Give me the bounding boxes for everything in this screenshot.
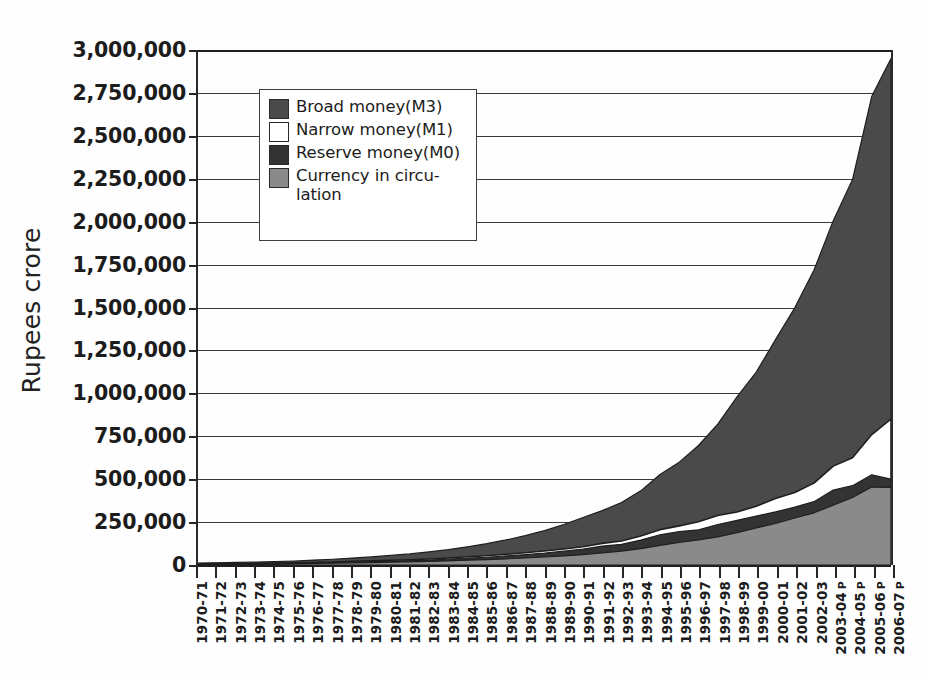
y-tick-label: 1,750,000 bbox=[72, 253, 186, 277]
x-tick-label-text: 1992-93 bbox=[620, 581, 636, 644]
x-tick-label-text: 2002-03 bbox=[814, 581, 830, 644]
chart-page: Rupees crore 3,000,0002,750,0002,500,000… bbox=[0, 0, 927, 683]
y-tick-label: 2,500,000 bbox=[72, 124, 186, 148]
y-tick-label: 1,500,000 bbox=[72, 296, 186, 320]
legend-item-label: Narrow money(M1) bbox=[296, 120, 453, 139]
legend-item-label: Currency in circu-lation bbox=[296, 166, 440, 204]
x-tick-label: 1974-75 bbox=[271, 581, 287, 644]
x-tick-label: 1984-85 bbox=[465, 581, 481, 644]
x-tick-label-text: 1975-76 bbox=[291, 581, 307, 644]
legend-swatch-icon bbox=[269, 99, 289, 119]
x-tick-mark bbox=[409, 565, 411, 578]
legend-swatch-icon bbox=[269, 122, 289, 142]
x-tick-label: 1971-72 bbox=[213, 581, 229, 644]
x-tick-label-text: 1974-75 bbox=[271, 581, 287, 644]
x-tick-label-text: 1983-84 bbox=[446, 581, 462, 644]
x-tick-mark bbox=[893, 565, 895, 578]
x-tick-mark bbox=[661, 565, 663, 578]
x-tick-label-text: 1996-97 bbox=[697, 581, 713, 644]
legend-item-label: Reserve money(M0) bbox=[296, 143, 460, 162]
x-tick-label: 1978-79 bbox=[349, 581, 365, 644]
y-tick-label: 2,000,000 bbox=[72, 210, 186, 234]
x-tick-mark bbox=[312, 565, 314, 578]
x-tick-mark bbox=[603, 565, 605, 578]
x-axis-tick-labels: 1970-711971-721972-731973-741974-751975-… bbox=[196, 565, 893, 683]
x-tick-label: 2004-05P bbox=[852, 581, 868, 655]
x-tick-mark bbox=[545, 565, 547, 578]
x-tick-label: 1999-00 bbox=[755, 581, 771, 644]
y-tick-label: 3,000,000 bbox=[72, 38, 186, 62]
y-axis-title-text: Rupees crore bbox=[18, 227, 47, 393]
x-tick-label-text: 1994-95 bbox=[659, 581, 675, 644]
x-tick-mark bbox=[525, 565, 527, 578]
x-tick-label-text: 2003-04 bbox=[833, 592, 849, 655]
x-tick-label-text: 1984-85 bbox=[465, 581, 481, 644]
x-tick-label-text: 1993-94 bbox=[639, 581, 655, 644]
x-tick-mark bbox=[874, 565, 876, 578]
x-tick-label: 2002-03 bbox=[814, 581, 830, 644]
x-tick-label-text: 1979-80 bbox=[368, 581, 384, 644]
x-tick-label: 1983-84 bbox=[446, 581, 462, 644]
x-tick-mark bbox=[332, 565, 334, 578]
x-tick-mark bbox=[486, 565, 488, 578]
x-tick-label-text: 2005-06 bbox=[872, 592, 888, 655]
x-tick-label: 1979-80 bbox=[368, 581, 384, 644]
x-tick-label-text: 1989-90 bbox=[562, 581, 578, 644]
x-tick-label: 1980-81 bbox=[388, 581, 404, 644]
x-tick-label-text: 1990-91 bbox=[581, 581, 597, 644]
x-tick-mark bbox=[428, 565, 430, 578]
x-tick-mark bbox=[467, 565, 469, 578]
x-tick-label: 1998-99 bbox=[736, 581, 752, 644]
legend-item-currency-in-circulation[interactable]: Currency in circu-lation bbox=[269, 166, 468, 204]
x-tick-mark bbox=[622, 565, 624, 578]
x-tick-label-text: 1982-83 bbox=[426, 581, 442, 644]
y-axis-title: Rupees crore bbox=[2, 0, 62, 620]
x-tick-label: 1973-74 bbox=[252, 581, 268, 644]
x-tick-mark bbox=[273, 565, 275, 578]
x-tick-mark bbox=[680, 565, 682, 578]
x-tick-mark bbox=[816, 565, 818, 578]
x-tick-label-text: 1978-79 bbox=[349, 581, 365, 644]
provisional-marker: P bbox=[836, 581, 849, 589]
x-tick-label: 1991-92 bbox=[601, 581, 617, 644]
x-tick-mark bbox=[777, 565, 779, 578]
x-tick-label: 1997-98 bbox=[717, 581, 733, 644]
chart-legend: Broad money(M3)Narrow money(M1)Reserve m… bbox=[259, 89, 477, 241]
y-tick-label: 2,750,000 bbox=[72, 81, 186, 105]
x-tick-label-text: 1981-82 bbox=[407, 581, 423, 644]
x-tick-label: 1977-78 bbox=[330, 581, 346, 644]
x-tick-label-text: 1985-86 bbox=[484, 581, 500, 644]
x-tick-label: 1996-97 bbox=[697, 581, 713, 644]
x-tick-label: 1970-71 bbox=[194, 581, 210, 644]
legend-item-broad-money-m3[interactable]: Broad money(M3) bbox=[269, 97, 468, 119]
x-tick-label: 2000-01 bbox=[775, 581, 791, 644]
x-tick-label: 2006-07P bbox=[891, 581, 907, 655]
x-tick-mark bbox=[506, 565, 508, 578]
provisional-marker: P bbox=[875, 581, 888, 589]
legend-swatch-icon bbox=[269, 145, 289, 165]
x-tick-label-text: 1998-99 bbox=[736, 581, 752, 644]
x-tick-label-text: 1986-87 bbox=[504, 581, 520, 644]
x-tick-label: 1989-90 bbox=[562, 581, 578, 644]
x-tick-mark bbox=[699, 565, 701, 578]
provisional-marker: P bbox=[855, 581, 868, 589]
x-tick-label: 2001-02 bbox=[794, 581, 810, 644]
x-tick-mark bbox=[583, 565, 585, 578]
legend-item-label: Broad money(M3) bbox=[296, 97, 442, 116]
x-tick-label-text: 1991-92 bbox=[601, 581, 617, 644]
x-tick-label-text: 1988-89 bbox=[543, 581, 559, 644]
x-tick-mark bbox=[835, 565, 837, 578]
x-tick-label: 2003-04P bbox=[833, 581, 849, 655]
y-tick-label: 2,250,000 bbox=[72, 167, 186, 191]
x-tick-label: 1987-88 bbox=[523, 581, 539, 644]
y-tick-label: 1,000,000 bbox=[72, 381, 186, 405]
legend-item-narrow-money-m1[interactable]: Narrow money(M1) bbox=[269, 120, 468, 142]
x-tick-label-text: 1999-00 bbox=[755, 581, 771, 644]
legend-item-reserve-money-m0[interactable]: Reserve money(M0) bbox=[269, 143, 468, 165]
x-tick-label: 1995-96 bbox=[678, 581, 694, 644]
provisional-marker: P bbox=[894, 581, 907, 589]
x-tick-mark bbox=[215, 565, 217, 578]
x-tick-label: 1976-77 bbox=[310, 581, 326, 644]
x-tick-label: 1986-87 bbox=[504, 581, 520, 644]
x-tick-mark bbox=[390, 565, 392, 578]
